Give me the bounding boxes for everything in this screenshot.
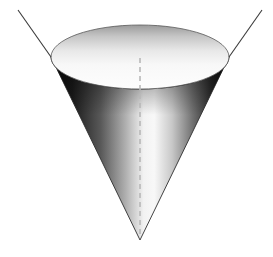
cone-diagram-svg: [0, 0, 273, 257]
cone-figure: [0, 0, 273, 257]
